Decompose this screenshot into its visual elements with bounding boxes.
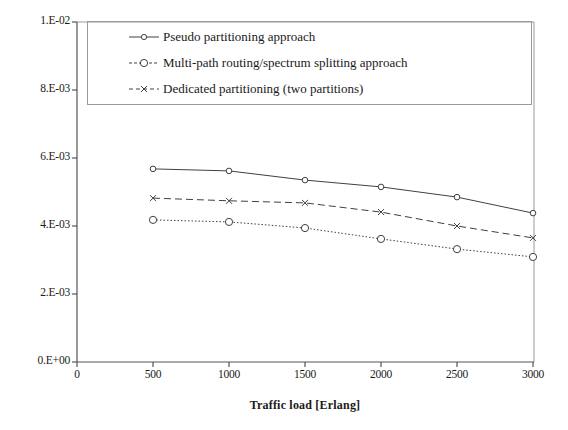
data-point-marker: [530, 210, 536, 216]
series-line-1: [153, 220, 533, 257]
data-point-marker: [454, 194, 460, 200]
legend-marker-circle-small-icon: [129, 31, 159, 43]
x-tick-label: 2000: [351, 368, 411, 380]
series-line-2: [153, 198, 533, 238]
data-point-marker: [377, 235, 384, 242]
legend-marker-circle-open-icon: [129, 57, 159, 69]
legend-label-2: Dedicated partitioning (two partitions): [163, 81, 363, 97]
data-point-marker: [225, 218, 232, 225]
data-point-marker: [529, 253, 536, 260]
legend-item-2: Dedicated partitioning (two partitions): [129, 78, 363, 100]
x-axis-title: Traffic load [Erlang]: [77, 398, 533, 413]
data-point-marker: [226, 168, 232, 174]
series-line-0: [153, 169, 533, 213]
legend-item-0: Pseudo partitioning approach: [129, 26, 315, 48]
legend-label-0: Pseudo partitioning approach: [163, 29, 315, 45]
data-point-marker: [378, 184, 384, 190]
legend-marker-x-icon: [129, 83, 159, 95]
data-point-marker: [453, 246, 460, 253]
x-tick-label: 3000: [503, 368, 563, 380]
data-point-marker: [302, 177, 308, 183]
data-point-marker: [149, 216, 156, 223]
x-tick-label: 2500: [427, 368, 487, 380]
legend-item-1: Multi-path routing/spectrum splitting ap…: [129, 52, 407, 74]
x-tick-label: 500: [123, 368, 183, 380]
data-point-marker: [150, 166, 156, 172]
x-tick-label: 1500: [275, 368, 335, 380]
x-tick-label: 0: [47, 368, 107, 380]
legend: Pseudo partitioning approach Multi-path …: [87, 21, 532, 105]
x-tick-label: 1000: [199, 368, 259, 380]
data-point-marker: [301, 224, 308, 231]
legend-label-1: Multi-path routing/spectrum splitting ap…: [163, 55, 407, 71]
chart-figure: Contiguous aligned available slot ratio …: [0, 0, 568, 430]
